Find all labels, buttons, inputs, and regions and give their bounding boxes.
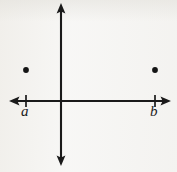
coordinate-plot [0,0,177,172]
x-axis [9,97,171,106]
y-axis [57,3,66,166]
coordinate-plane-figure: a b [0,0,177,172]
data-point-b [152,67,158,73]
x-axis-tick-label-b: b [150,104,158,119]
data-point-a [23,67,29,73]
data-points [23,67,158,73]
x-axis-tick-label-a: a [21,104,29,119]
